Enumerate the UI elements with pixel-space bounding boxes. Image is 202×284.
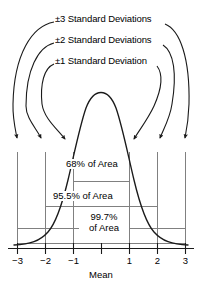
arrow-sd3-right (165, 24, 189, 138)
area-label-68: 68% of Area (65, 159, 119, 169)
tick-label-neg3: −3 (10, 256, 26, 266)
x-axis (8, 243, 194, 254)
callout-label-sd3: ±3 Standard Deviations (55, 14, 152, 24)
axis-title-mean: Mean (81, 270, 121, 280)
tick-label-pos3: 3 (178, 256, 194, 266)
normal-distribution-diagram: ±3 Standard Deviations ±2 Standard Devia… (0, 0, 202, 284)
area-label-955: 95.5% of Area (52, 191, 114, 201)
tick-label-pos1: 1 (122, 256, 138, 266)
arrow-sd3-left (13, 22, 54, 138)
callout-label-sd1: ±1 Standard Deviation (55, 56, 147, 66)
arrow-sd2-left (26, 43, 54, 138)
area-label-997: 99.7% of Area (79, 212, 129, 234)
arrow-sd1-left (42, 64, 66, 139)
arrow-sd1-right (134, 66, 161, 139)
tick-label-neg1: −1 (66, 256, 82, 266)
callout-label-sd2: ±2 Standard Deviations (55, 35, 152, 45)
arrow-sd2-right (160, 45, 174, 138)
area-label-997-line2: of Area (80, 223, 128, 234)
tick-label-neg2: −2 (38, 256, 54, 266)
tick-label-pos2: 2 (150, 256, 166, 266)
